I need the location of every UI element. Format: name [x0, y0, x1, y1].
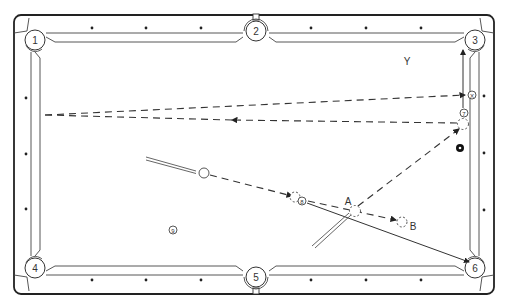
pocket-1-label: 1 [32, 35, 38, 46]
pocket-5: 5 [244, 267, 268, 294]
a-to-seven-path [358, 129, 459, 206]
label-y: Y [404, 56, 411, 67]
pocket-6-label: 6 [472, 263, 478, 274]
pocket-1: 1 [25, 30, 45, 52]
pocket-6: 6 [465, 256, 485, 278]
cue-stick-1 [146, 157, 196, 174]
table-outer-frame [14, 15, 494, 294]
left-rail-to-x-path [45, 95, 465, 115]
shot-paths [45, 50, 469, 262]
ball-eight: 8 [298, 197, 306, 205]
left-rail-return-1 [45, 115, 232, 120]
ghost-ball-b [397, 217, 407, 227]
pocket-5-label: 5 [253, 272, 259, 283]
cushions [35, 37, 475, 271]
pocket-4: 4 [25, 256, 45, 278]
pocket-4-label: 4 [32, 263, 38, 274]
black-ball [456, 144, 464, 152]
ball-nine: 9 [169, 226, 177, 234]
ghost-ball-a [350, 206, 361, 217]
billiards-diagram: 1 2 3 4 5 6 [0, 0, 510, 302]
cue-ball [199, 168, 209, 178]
target-x-label: X [470, 93, 474, 99]
target-x-marker: X [468, 91, 476, 99]
pocket-2-label: 2 [253, 26, 259, 37]
ball-seven-label-group: 7 [460, 109, 468, 117]
pocket-2: 2 [244, 14, 268, 41]
seven-to-left-rail-path [232, 120, 457, 123]
cue-stick-2 [312, 213, 351, 248]
rail-edges [14, 18, 494, 291]
label-a: A [345, 196, 352, 207]
pocket-3-label: 3 [472, 35, 478, 46]
cue-ball-path [210, 175, 292, 196]
ghost-ball-seven [458, 119, 469, 130]
pocket-3: 3 [465, 30, 485, 52]
label-b: B [410, 221, 417, 232]
